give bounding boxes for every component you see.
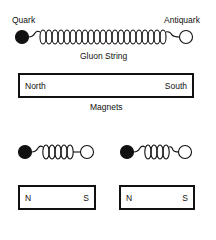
gluon-string-coil-icon [43,145,73,159]
south-pole-label: South [165,81,187,91]
big-magnet: North South [18,73,194,98]
top-quark-antiquark-pair [16,30,193,44]
north-pole-label: N [126,193,132,203]
small-magnet-right: N S [119,185,195,210]
gluon-string-coil-icon [145,145,169,159]
antiquark-icon [81,146,94,159]
gluon-string-coil-icon [40,30,166,44]
north-pole-label: North [25,81,46,91]
south-pole-label: S [182,193,188,203]
quark-icon [16,31,29,44]
lower-pair-right [121,145,192,159]
south-pole-label: S [83,193,89,203]
north-pole-label: N [25,193,31,203]
quark-icon [121,146,134,159]
magnets-caption: Magnets [90,102,123,112]
small-magnet-left: N S [18,185,96,210]
antiquark-icon [180,31,193,44]
quark-icon [19,146,32,159]
antiquark-icon [179,146,192,159]
lower-pair-left [19,145,94,159]
